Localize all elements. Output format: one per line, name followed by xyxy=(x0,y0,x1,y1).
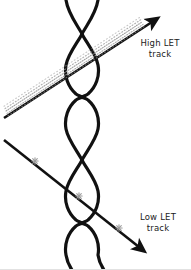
high-let-track-label-line1: High LET xyxy=(140,38,179,48)
low-let-track-label-line1: Low LET xyxy=(140,212,176,222)
low-let-track-label: Low LET track xyxy=(129,212,187,234)
helix-strand-a xyxy=(65,0,98,270)
low-let-damage-spot xyxy=(32,158,38,164)
high-let-track-label: High LET track xyxy=(131,38,189,60)
low-let-track-label-line2: track xyxy=(129,223,187,234)
dna-double-helix xyxy=(65,0,104,270)
let-track-figure: High LET track Low LET track xyxy=(0,0,191,270)
high-let-track-label-line2: track xyxy=(131,49,189,60)
low-let-damage-spot xyxy=(76,193,82,199)
low-let-damage-spot xyxy=(116,225,122,231)
high-let-track xyxy=(4,17,152,118)
